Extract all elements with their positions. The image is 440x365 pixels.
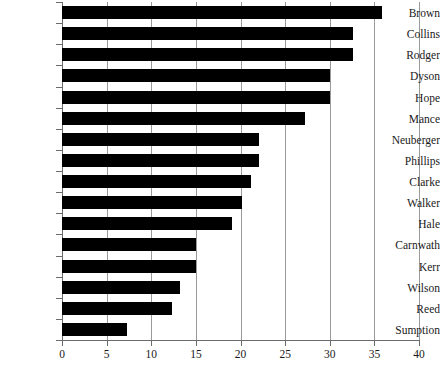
bar-clarke	[62, 175, 251, 188]
category-label-sumption: Sumption	[384, 324, 440, 336]
bar-rodger	[62, 48, 353, 61]
x-tick-20	[241, 341, 242, 346]
category-label-reed: Reed	[384, 303, 440, 315]
bar-sumption	[62, 323, 127, 336]
y-tick-12	[56, 256, 62, 257]
bar-walker	[62, 196, 242, 209]
bar-collins	[62, 27, 353, 40]
y-tick-14	[56, 298, 62, 299]
category-label-mance: Mance	[384, 113, 440, 125]
y-tick-15	[56, 319, 62, 320]
y-tick-2	[56, 44, 62, 45]
y-tick-0	[56, 2, 62, 3]
category-label-brown: Brown	[384, 7, 440, 19]
x-tick-5	[107, 341, 108, 346]
x-tick-40	[419, 341, 420, 346]
bar-kerr	[62, 260, 196, 273]
bar-hale	[62, 217, 232, 230]
x-tick-label-25: 25	[270, 348, 300, 360]
y-tick-3	[56, 65, 62, 66]
bar-phillips	[62, 154, 259, 167]
x-tick-25	[285, 341, 286, 346]
x-tick-0	[62, 341, 63, 346]
bar-dyson	[62, 69, 330, 82]
bar-neuberger	[62, 133, 259, 146]
x-tick-label-0: 0	[47, 348, 77, 360]
gridline-35	[374, 2, 375, 340]
category-label-hope: Hope	[384, 92, 440, 104]
bar-carnwath	[62, 238, 196, 251]
category-label-carnwath: Carnwath	[384, 239, 440, 251]
category-label-collins: Collins	[384, 28, 440, 40]
x-tick-10	[151, 341, 152, 346]
bar-wilson	[62, 281, 180, 294]
bar-reed	[62, 302, 172, 315]
x-tick-label-30: 30	[315, 348, 345, 360]
category-label-dyson: Dyson	[384, 70, 440, 82]
y-tick-1	[56, 23, 62, 24]
y-tick-7	[56, 150, 62, 151]
y-tick-5	[56, 108, 62, 109]
category-label-clarke: Clarke	[384, 176, 440, 188]
y-tick-8	[56, 171, 62, 172]
x-tick-label-35: 35	[359, 348, 389, 360]
category-label-neuberger: Neuberger	[384, 134, 440, 146]
x-tick-label-20: 20	[226, 348, 256, 360]
category-label-phillips: Phillips	[384, 155, 440, 167]
x-tick-label-5: 5	[92, 348, 122, 360]
y-tick-13	[56, 277, 62, 278]
category-label-hale: Hale	[384, 218, 440, 230]
y-tick-16	[56, 340, 62, 341]
x-tick-label-40: 40	[404, 348, 434, 360]
bar-mance	[62, 112, 305, 125]
category-label-walker: Walker	[384, 197, 440, 209]
bar-brown	[62, 6, 382, 19]
x-tick-35	[374, 341, 375, 346]
y-tick-10	[56, 213, 62, 214]
x-tick-label-15: 15	[181, 348, 211, 360]
y-tick-11	[56, 234, 62, 235]
x-tick-30	[330, 341, 331, 346]
bar-chart: BrownCollinsRodgerDysonHopeManceNeuberge…	[0, 0, 440, 365]
category-label-kerr: Kerr	[384, 261, 440, 273]
y-tick-4	[56, 87, 62, 88]
x-tick-label-10: 10	[136, 348, 166, 360]
category-label-rodger: Rodger	[384, 49, 440, 61]
category-label-wilson: Wilson	[384, 282, 440, 294]
y-tick-6	[56, 129, 62, 130]
x-tick-15	[196, 341, 197, 346]
bar-hope	[62, 91, 330, 104]
y-tick-9	[56, 192, 62, 193]
